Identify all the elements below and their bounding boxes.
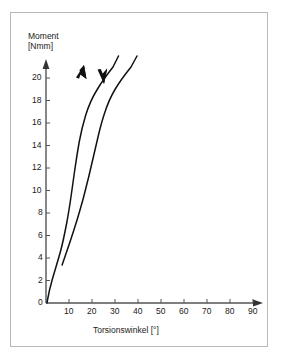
x-tick-label-80: 80 [225,307,234,316]
y-axis-title-line2: [Nmm] [28,41,59,51]
y-axis-arrowhead [43,59,50,69]
x-tick-label-30: 30 [110,307,119,316]
y-tick-label-18: 18 [32,96,41,105]
y-tick-label-0: 0 [38,298,43,307]
axes-group [43,59,263,307]
y-tick-label-10: 10 [32,186,41,195]
y-axis-title: Moment [Nmm] [28,31,59,52]
figure-container: Moment [Nmm] Torsionswinkel [°] 0 2 4 6 … [0,0,284,362]
y-axis-title-line1: Moment [28,31,59,41]
y-tick-label-2: 2 [38,276,43,285]
y-tick-label-8: 8 [38,208,43,217]
x-axis-title: Torsionswinkel [°] [93,325,159,335]
loading-curve [47,56,119,303]
x-tick-label-10: 10 [64,307,73,316]
y-tick-label-6: 6 [38,231,43,240]
y-tick-label-20: 20 [32,73,41,82]
y-tick-label-12: 12 [32,163,41,172]
y-tick-label-16: 16 [32,118,41,127]
y-tick-label-14: 14 [32,141,41,150]
y-tick-label-4: 4 [38,253,43,262]
x-tick-label-70: 70 [202,307,211,316]
x-tick-label-90: 90 [248,307,257,316]
loading-arrowhead [76,65,87,79]
x-tick-label-50: 50 [156,307,165,316]
x-tick-label-40: 40 [133,307,142,316]
x-tick-label-20: 20 [87,307,96,316]
unloading-curve [62,56,137,265]
x-tick-label-60: 60 [179,307,188,316]
